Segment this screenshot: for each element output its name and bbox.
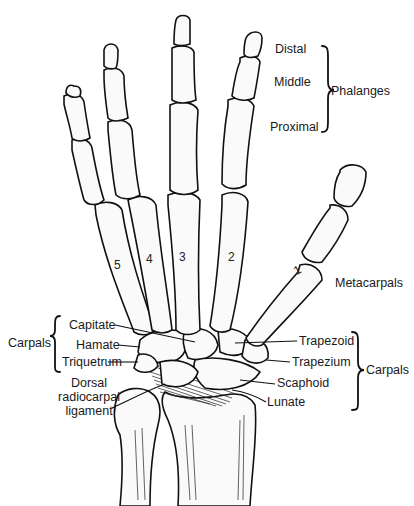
label-carpals-left: Carpals bbox=[8, 336, 51, 350]
phalanges-digit-4 bbox=[104, 44, 140, 199]
label-scaphoid: Scaphoid bbox=[277, 376, 329, 390]
digit-number-5: 5 bbox=[114, 258, 121, 272]
phalanges-digit-5 bbox=[64, 85, 104, 204]
digit-number-2: 2 bbox=[228, 250, 235, 264]
label-trapezium: Trapezium bbox=[292, 355, 351, 369]
label-capitate: Capitate bbox=[69, 318, 116, 332]
radius-bone bbox=[162, 392, 256, 506]
label-triquetrum: Triquetrum bbox=[62, 355, 122, 369]
phalanges-digit-1 bbox=[302, 165, 366, 263]
label-dorsal-radiocarpal-ligament: Dorsal radiocarpal ligament bbox=[58, 376, 120, 418]
digit-number-3: 3 bbox=[179, 250, 186, 264]
label-hamate: Hamate bbox=[76, 338, 120, 352]
phalanges-digit-2 bbox=[222, 32, 262, 189]
label-dorsal-line2: radiocarpal bbox=[58, 390, 120, 404]
label-phalanges: Phalanges bbox=[331, 84, 390, 98]
hand-skeleton-illustration bbox=[0, 0, 414, 506]
metacarpals bbox=[95, 192, 322, 346]
digit-number-4: 4 bbox=[146, 252, 153, 266]
phalanges-digit-3 bbox=[170, 16, 198, 195]
label-dorsal-line3: ligament bbox=[58, 404, 120, 418]
label-lunate: Lunate bbox=[267, 395, 305, 409]
label-metacarpals: Metacarpals bbox=[335, 276, 403, 290]
ulna-bone bbox=[114, 388, 160, 506]
label-dorsal-line1: Dorsal bbox=[58, 376, 120, 390]
label-distal: Distal bbox=[275, 42, 306, 56]
carpals-left-brace bbox=[50, 316, 60, 372]
label-trapezoid: Trapezoid bbox=[299, 334, 354, 348]
label-proximal: Proximal bbox=[270, 120, 319, 134]
label-carpals-right: Carpals bbox=[366, 363, 409, 377]
label-middle: Middle bbox=[274, 75, 311, 89]
